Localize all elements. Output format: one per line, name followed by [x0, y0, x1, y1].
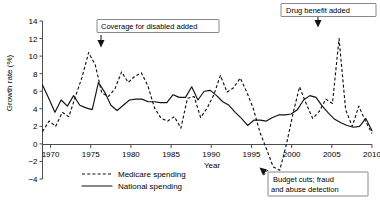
- chart-figure: 14121086420−2−4 197019751980198519901995…: [0, 0, 380, 203]
- x-tick-label: 1990: [202, 150, 220, 159]
- y-tick-label: 14: [29, 17, 38, 26]
- x-tick-label: 1975: [82, 150, 100, 159]
- y-tick-label: 6: [33, 87, 38, 96]
- y-tick-label: 2: [33, 122, 38, 131]
- annotation-coverage-label: Coverage for disabled added: [101, 22, 197, 31]
- y-tick-label: 0: [33, 140, 38, 149]
- x-tick-label: 2000: [283, 150, 301, 159]
- x-tick-label: 2010: [363, 150, 380, 159]
- annotation-budget-cuts: Budget cuts; fraud and abuse detection: [260, 168, 369, 197]
- x-tick-label: 1970: [42, 150, 60, 159]
- annotation-drug-label: Drug benefit added: [286, 6, 350, 15]
- annotation-budget-label-line2: and abuse detection: [271, 185, 339, 194]
- annotation-coverage-arrowhead: [98, 40, 105, 48]
- y-tick-label: 10: [29, 52, 38, 61]
- y-tick-label: −4: [28, 175, 38, 184]
- x-axis-ticks: 197019751980198519901995200020052010: [42, 145, 380, 160]
- annotation-budget-label-line1: Budget cuts; fraud: [273, 175, 334, 184]
- chart-legend: Medicare spending National spending: [82, 170, 186, 191]
- growth-rate-chart: 14121086420−2−4 197019751980198519901995…: [0, 0, 380, 203]
- y-axis-ticks: 14121086420−2−4: [28, 17, 42, 184]
- annotation-coverage-for-disabled: Coverage for disabled added: [97, 20, 219, 48]
- y-axis-title: Growth rate (%): [5, 54, 14, 111]
- y-tick-label: 12: [29, 35, 38, 44]
- series-line-national-spending: [43, 82, 373, 130]
- annotation-drug-benefit: Drug benefit added: [281, 4, 376, 28]
- y-tick-label: −2: [28, 157, 38, 166]
- x-axis-title: Year: [204, 161, 221, 170]
- y-tick-label: 4: [33, 105, 38, 114]
- x-tick-label: 1995: [243, 150, 261, 159]
- annotation-drug-arrowhead: [315, 20, 322, 28]
- legend-label-medicare: Medicare spending: [118, 170, 186, 179]
- legend-label-national: National spending: [118, 182, 182, 191]
- x-tick-label: 1985: [162, 150, 180, 159]
- annotation-budget-arrowhead: [260, 168, 268, 176]
- x-tick-label: 2005: [323, 150, 341, 159]
- x-tick-label: 1980: [122, 150, 140, 159]
- y-tick-label: 8: [33, 70, 38, 79]
